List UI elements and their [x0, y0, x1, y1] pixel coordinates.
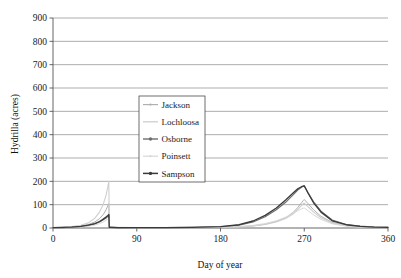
y-tick-label-100: 100 [33, 200, 48, 210]
series-line-osborne [53, 186, 388, 228]
gridlines-group [53, 18, 388, 205]
y-tick-label-400: 400 [33, 130, 48, 140]
y-tick-label-900: 900 [33, 13, 48, 23]
y-tick-label-200: 200 [33, 177, 48, 187]
x-tick-label-180: 180 [213, 234, 228, 244]
series-line-poinsett [53, 208, 388, 228]
y-tick-label-600: 600 [33, 83, 48, 93]
x-tick-label-0: 0 [51, 234, 56, 244]
legend-label-poinsett: Poinsett [162, 151, 192, 161]
y-tick-labels-group: 0100200300400500600700800900 [33, 13, 48, 233]
axes-group [50, 18, 389, 232]
legend-label-lochloosa: Lochloosa [162, 117, 200, 127]
x-tick-label-270: 270 [297, 234, 312, 244]
y-tick-label-300: 300 [33, 153, 48, 163]
legend-label-osborne: Osborne [162, 134, 193, 144]
legend-marker-poinsett [149, 155, 151, 157]
legend-marker-osborne [149, 137, 152, 140]
x-tick-label-360: 360 [381, 234, 396, 244]
x-axis-title: Day of year [198, 260, 244, 270]
legend-marker-jackson [149, 104, 151, 106]
chart-legend: JacksonLochloosaOsbornePoinsettSampson [139, 96, 205, 182]
y-tick-label-800: 800 [33, 37, 48, 47]
y-tick-label-700: 700 [33, 60, 48, 70]
legend-label-sampson: Sampson [162, 169, 196, 179]
legend-marker-sampson [149, 172, 152, 175]
y-tick-label-500: 500 [33, 107, 48, 117]
y-axis-title: Hydrilla (acres) [10, 94, 21, 154]
legend-label-jackson: Jackson [162, 100, 191, 110]
x-tick-labels-group: 090180270360 [51, 234, 396, 244]
y-tick-label-0: 0 [42, 223, 47, 233]
hydrilla-line-chart: 0100200300400500600700800900 09018027036… [0, 0, 401, 278]
x-tick-label-90: 90 [132, 234, 142, 244]
chart-figure: 0100200300400500600700800900 09018027036… [0, 0, 401, 278]
